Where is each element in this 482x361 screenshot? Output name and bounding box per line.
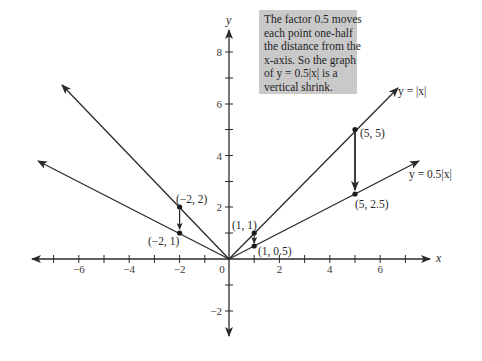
point-label: (1, 1)	[232, 219, 257, 232]
point-5-5	[352, 127, 357, 132]
x-tick-label: −2	[174, 263, 186, 275]
note-line: each point one-half	[264, 27, 354, 41]
curve-half-abs-x-label: y = 0.5|x|	[409, 168, 452, 181]
point-label: (5, 2.5)	[355, 198, 389, 211]
x-tick-label: 4	[327, 263, 333, 275]
point-label: (−2, 2)	[176, 193, 208, 206]
note-line: The factor 0.5 moves	[264, 13, 354, 27]
note-line: x-axis. So the graph	[264, 54, 354, 68]
note-line: the distance from the	[264, 40, 354, 54]
y-tick-label: 2	[217, 201, 223, 213]
curve-abs-x-label: y = |x|	[398, 85, 426, 98]
point-1-0.5	[252, 243, 257, 248]
point-label: (1, 0.5)	[258, 245, 292, 258]
y-tick-label: −2	[210, 305, 222, 317]
graph-figure: −6 −4 −2 0 2 4 6 x	[0, 0, 482, 361]
x-tick-label: −6	[73, 263, 85, 275]
y-tick-label: 4	[217, 150, 223, 162]
note-line: vertical shrink.	[264, 81, 354, 95]
x-tick-label: 6	[377, 263, 383, 275]
point-label: (5, 5)	[360, 127, 385, 140]
note-line: of y = 0.5|x| is a	[264, 67, 354, 81]
y-tick-label: 8	[217, 46, 223, 58]
origin-label: 0	[219, 263, 225, 275]
x-tick-label: −4	[123, 263, 135, 275]
y-axis-label: y	[225, 13, 232, 27]
shrink-arrows	[180, 132, 355, 243]
y-tick-label: 6	[217, 98, 223, 110]
point-1-1	[252, 230, 257, 235]
coordinate-plane: −6 −4 −2 0 2 4 6 x	[0, 0, 482, 361]
point-neg2-2	[177, 204, 182, 209]
point-label: (−2, 1)	[148, 235, 180, 248]
point-5-2.5	[352, 191, 357, 196]
curve-abs-x: y = |x|	[62, 85, 426, 259]
x-tick-label: 2	[277, 263, 283, 275]
explanation-note: The factor 0.5 moves each point one-half…	[259, 10, 357, 94]
x-axis-label: x	[435, 251, 442, 265]
curve-half-abs-x: y = 0.5|x|	[38, 161, 452, 259]
data-points	[177, 127, 358, 249]
y-axis: 8 6 4 2 −2 y	[210, 13, 233, 336]
